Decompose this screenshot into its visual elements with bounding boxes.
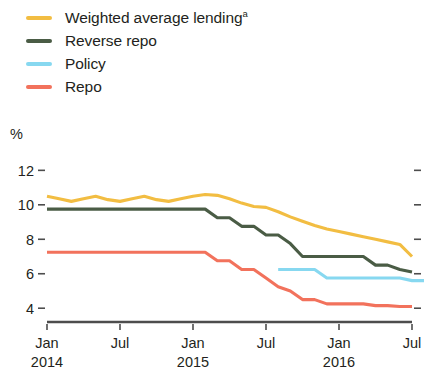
x-axis-tick-label: Jan	[181, 335, 204, 351]
interest-rate-line-chart: Weighted average lendinga Reverse repo P…	[0, 0, 424, 375]
y-axis-tick-label: 8	[26, 232, 34, 248]
x-axis-tick-label: Jul	[257, 335, 276, 351]
y-axis-tick-label: 4	[26, 301, 34, 317]
series-line-weighted-average-lending	[47, 194, 412, 256]
x-axis-tick-label: Jan	[327, 335, 350, 351]
x-axis-tick-label: Jul	[403, 335, 422, 351]
x-axis-tick-label: Jan	[35, 335, 58, 351]
x-axis-year-label: 2015	[177, 354, 209, 370]
x-axis-tick-label: Jul	[111, 335, 130, 351]
chart-plot-area: 4681012Jan2014JulJan2015JulJan2016Jul	[0, 0, 424, 375]
x-axis-year-label: 2014	[31, 354, 63, 370]
x-axis-year-label: 2016	[323, 354, 355, 370]
y-axis-tick-label: 6	[26, 266, 34, 282]
y-axis-tick-label: 10	[18, 197, 34, 213]
y-axis-tick-label: 12	[18, 163, 34, 179]
